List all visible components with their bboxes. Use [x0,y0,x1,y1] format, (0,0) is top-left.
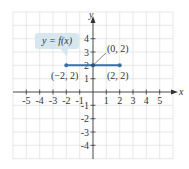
x-axis-arrow-icon [171,90,178,95]
y-axis-label: y [88,9,94,20]
svg-text:4: 4 [84,33,89,44]
svg-text:-4: -4 [81,140,89,151]
point-center [91,63,95,67]
graph: -5 -4 -3 -2 -1 1 2 3 4 5 4 3 2 1 -1 -2 -… [0,0,189,169]
label-left-point: (−2, 2) [51,70,78,82]
svg-text:-3: -3 [81,127,89,138]
label-right-point: (2, 2) [107,70,129,82]
x-axis-label: x [178,86,184,97]
x-tick-labels: -5 -4 -3 -2 -1 1 2 3 4 5 [22,95,162,106]
svg-text:-3: -3 [49,95,57,106]
pointer-line [93,53,106,65]
svg-text:3: 3 [84,47,89,58]
svg-text:-2: -2 [62,95,70,106]
svg-text:3: 3 [131,95,136,106]
svg-text:1: 1 [84,73,89,84]
callout: y = f(x) [35,33,79,57]
svg-text:y = f(x): y = f(x) [41,35,73,47]
svg-text:2: 2 [117,95,122,106]
svg-text:-5: -5 [22,95,30,106]
point-right [118,63,122,67]
svg-text:4: 4 [144,95,149,106]
svg-text:-2: -2 [81,113,89,124]
svg-text:-4: -4 [36,95,44,106]
svg-text:-1: -1 [81,100,89,111]
svg-text:1: 1 [104,95,109,106]
label-center-point: (0, 2) [107,43,129,55]
point-left [64,63,68,67]
svg-text:5: 5 [157,95,162,106]
